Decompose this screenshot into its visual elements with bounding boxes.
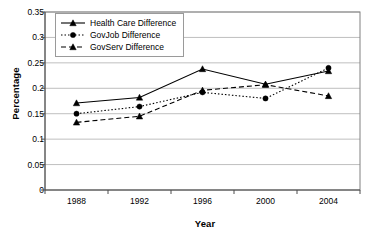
- legend-item: GovJob Difference: [60, 29, 176, 41]
- legend-item: GovServ Difference: [60, 41, 176, 53]
- data-point-triangle: [199, 66, 205, 72]
- data-point-circle: [137, 104, 142, 109]
- data-point-circle: [326, 65, 331, 70]
- data-point-circle: [70, 32, 75, 37]
- legend-marker-circle-icon: [60, 29, 86, 41]
- legend-item: Health Care Difference: [60, 17, 176, 29]
- legend-label: Health Care Difference: [90, 19, 176, 28]
- series-line: [77, 69, 329, 103]
- legend-marker-triangle-icon: [60, 41, 86, 53]
- data-point-circle: [74, 111, 79, 116]
- chart-legend: Health Care DifferenceGovJob DifferenceG…: [55, 13, 184, 57]
- line-chart: Percentage Year 00.050.10.150.20.250.30.…: [0, 0, 373, 238]
- legend-label: GovJob Difference: [90, 31, 160, 40]
- legend-label: GovServ Difference: [90, 43, 164, 52]
- data-point-circle: [263, 96, 268, 101]
- legend-marker-triangle-icon: [60, 17, 86, 29]
